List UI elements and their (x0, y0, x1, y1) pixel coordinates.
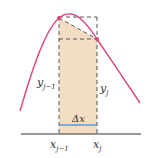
x-left-label: xj−1 (50, 138, 69, 153)
trapezoid-diagram: Δx yj−1 yj xj−1 xj (0, 0, 159, 158)
point-right (95, 37, 99, 41)
delta-x-label: Δx (71, 113, 85, 124)
y-left-label: yj−1 (36, 76, 56, 91)
point-left (57, 16, 61, 20)
y-right-label: yj (99, 82, 109, 97)
x-right-label: xj (93, 138, 102, 153)
